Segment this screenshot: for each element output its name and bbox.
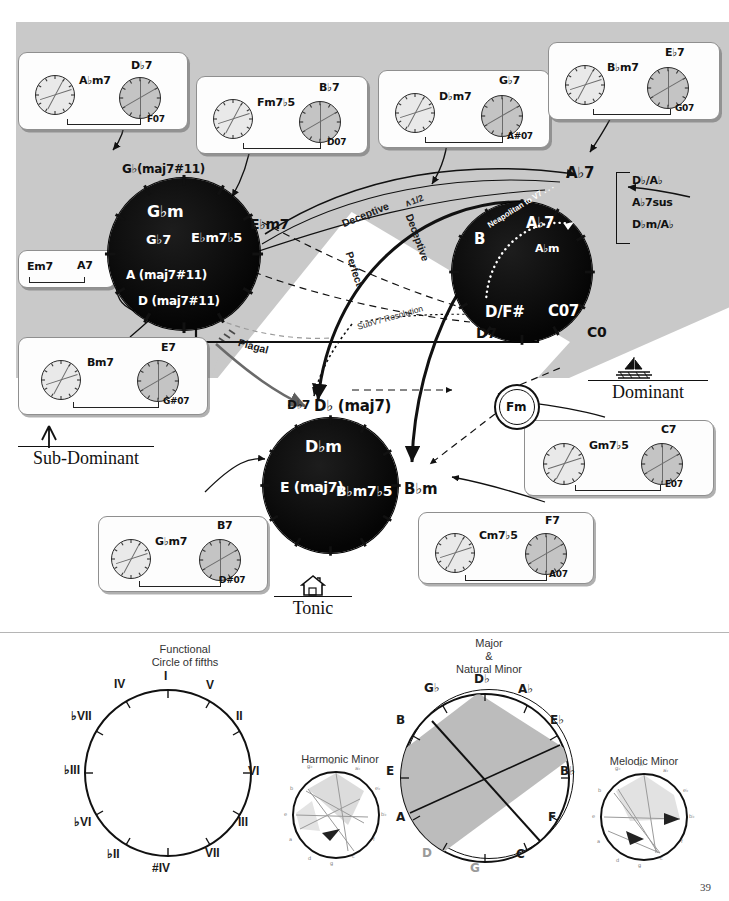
tonic-label-bbm7b5: B♭m7♭5 [336,483,392,499]
cof-roman-flat3: ♭III [64,763,80,777]
chord-label-left: Fm7♭5 [257,96,295,109]
chord-label-left: A♭m7 [79,74,111,87]
cof-roman-flat7: ♭VII [71,709,92,723]
chord-label-right: B♭7 [319,81,339,94]
chord-label-right: C7 [661,423,676,436]
subdominant-side-label-ebm7: E♭m7 [250,216,289,232]
harmonic-mini-label-ab: a♭ [355,765,360,771]
subdominant-caption: Sub-Dominant [18,446,154,469]
pie-chart-bbm7 [565,65,605,105]
relative-minor-label: Fm [506,400,526,414]
chord-label-right-alt: D07 [327,137,346,147]
harmonic-mini-label-f: f [373,836,375,842]
harmonic-mini-label-d: d [308,855,311,861]
bracket [593,109,671,115]
major-label-f: F [548,810,556,824]
pie-chart-gbm7 [111,539,151,579]
harmonic-mini-label-eb: e♭ [375,785,380,791]
cof-roman-flat6: ♭VI [74,815,91,829]
chord-box-em7-a7[interactable]: Em7 A7 [18,250,116,288]
melodic-mini-label-e: e [592,813,595,819]
cof-roman-sharp4: #IV [152,861,170,875]
melodic-mini-label-bb: b♭ [689,813,695,819]
major-label-b: B [396,713,405,727]
harmonic-mini-label-c: c [352,853,355,859]
chord-label-right-alt: A07 [549,569,568,579]
harmonic-mini-label-gb: g♭ [307,763,313,769]
chord-label-right-alt: E07 [665,479,683,489]
chord-box-bbm7-eb7[interactable]: B♭m7 E♭7 G07 [548,42,720,120]
sailboat-icon [612,356,656,382]
cof-roman-vii: VII [205,846,220,860]
chord-label-right-alt: F07 [147,114,165,124]
melodic-minor-title: Melodic Minor [580,755,708,768]
alt-db-over-ab: D♭/A♭ [632,174,663,187]
bracket [465,575,547,581]
circle-of-fifths-section: Functional Circle of fifths I V II VI II… [0,632,729,901]
tonic-label-dbm: D♭m [305,437,342,456]
tonic-side-label-bbm: B♭m [404,480,437,498]
chord-box-cm7b5-f7[interactable]: Cm7♭5 F7 A07 [418,512,594,584]
melodic-mini-label-a: a [597,838,600,844]
chord-box-bm7-e7[interactable]: Bm7 E7 G#07 [18,337,208,415]
chord-label-right: G♭7 [499,74,520,87]
harmonic-minor-vectors [292,771,380,859]
major-label-bb: B♭ [560,764,575,778]
functional-cof-ticks [84,689,252,857]
subdominant-label-d: D (maj7#11) [138,294,220,308]
tonic-label-e: E (maj7) [280,479,343,495]
chord-label-right: E♭7 [665,46,684,59]
chord-label-left: B♭m7 [607,61,639,74]
major-minor-shading [400,693,575,868]
pie-chart-abm7 [35,75,75,115]
chord-label-right: D♭7 [131,59,152,72]
major-minor-title: Major & Natural Minor [414,637,564,676]
bracket [425,137,503,143]
chord-label-left: Gm7♭5 [589,439,629,452]
major-label-d: D [422,846,432,860]
harmonic-mini-label-db: d♭ [330,759,336,765]
chord-label-left: G♭m7 [155,535,187,548]
melodic-minor-vectors [600,773,688,861]
chord-box-dbm7-gb7[interactable]: D♭m7 G♭7 A#07 [378,70,550,148]
major-label-c: C [516,847,525,861]
bracket [575,485,661,491]
harmonic-mini-label-a: a [289,836,292,842]
major-label-ab: A♭ [518,682,533,696]
arrow-up-icon [36,424,62,448]
chord-box-abm7-db7[interactable]: A♭m7 D♭7 F07 [18,52,188,130]
chord-label-right: F7 [545,514,560,527]
melodic-mini-label-eb: e♭ [683,787,688,793]
melodic-mini-label-f: f [681,838,683,844]
harmonic-mini-label-g: g [330,860,333,866]
alt-ab7sus: A♭7sus [632,196,672,209]
pie-chart-bm7 [41,360,81,400]
chord-label-right: E7 [161,341,176,354]
chord-box-gm7b5-c7[interactable]: Gm7♭5 C7 E07 [524,420,714,496]
major-label-gb: G♭ [424,681,440,695]
subdominant-label-a: A (maj7#11) [126,268,207,282]
bracket [29,277,85,283]
page-root: A♭m7 D♭7 F07 Fm7♭5 B♭7 D07 D♭m7 G♭7 A#07 [0,0,729,901]
major-label-g: G [470,861,480,875]
harmonic-minor-title: Harmonic Minor [276,753,404,766]
pie-chart-gm7b5 [543,443,585,485]
pie-chart-db7 [119,77,161,119]
chord-label-right-alt: G07 [675,103,694,113]
melodic-mini-label-gb: g♭ [615,765,621,771]
major-label-db: D♭ [474,672,490,686]
chord-label-left: Bm7 [87,356,114,369]
chord-label-right-alt: D#07 [219,575,245,585]
harmonic-mini-label-b: b [290,785,293,791]
chord-label-left: Em7 [27,260,53,273]
major-label-a: A [396,810,405,824]
tonic-side-label-db7: D♭7 [287,398,310,412]
tonic-outer-label: D♭ (maj7) [314,397,391,415]
chord-label-right: A7 [77,259,93,272]
chord-box-gbm7-b7[interactable]: G♭m7 B7 D#07 [98,516,268,592]
harmonic-mini-label-bb: b♭ [381,811,387,817]
pie-chart-dbm7 [395,93,435,133]
chord-box-fm7b5-bb7[interactable]: Fm7♭5 B♭7 D07 [196,76,368,154]
subdominant-label-gbm: G♭m [147,202,183,221]
subdominant-label-gb7: G♭7 [146,232,171,247]
